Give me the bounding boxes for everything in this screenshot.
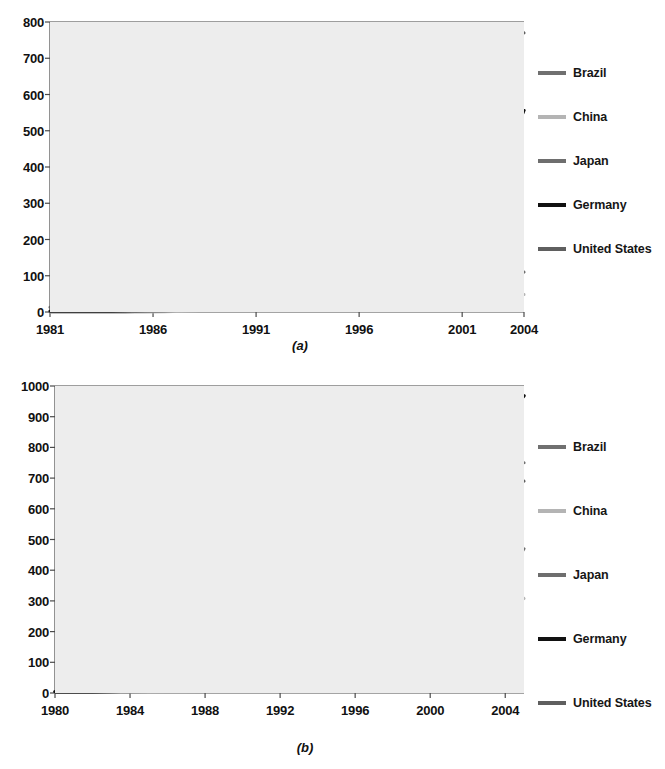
y-tick-label: 600 [7,501,49,516]
legend-swatch-icon [538,573,566,577]
legend-item-label: Germany [573,632,627,646]
legend-item-label: United States [573,242,652,256]
x-tick-label: 2001 [448,322,476,337]
legend-swatch-icon [538,71,566,75]
x-tick-label: 1992 [266,703,294,718]
y-tick-label: 700 [2,51,44,66]
y-tick-label: 500 [7,532,49,547]
y-tick-label: 300 [7,593,49,608]
x-tick-label: 1980 [41,703,69,718]
y-tick-label: 800 [2,15,44,30]
y-tick-label: 0 [2,305,44,320]
y-tick-label: 200 [2,232,44,247]
y-tick-label: 200 [7,624,49,639]
legend-item-japan[interactable]: Japan [538,154,609,168]
legend-item-label: China [573,110,607,124]
legend-item-label: Japan [573,568,609,582]
x-tick-label: 1984 [116,703,144,718]
legend-item-germany[interactable]: Germany [538,198,627,212]
plot-background-a [50,22,524,312]
legend-swatch-icon [538,637,566,642]
y-tick-label: 500 [2,123,44,138]
y-tick-label: 0 [7,686,49,701]
legend-item-germany[interactable]: Germany [538,632,627,646]
legend-item-label: China [573,504,607,518]
y-tick-label: 700 [7,471,49,486]
x-tick-label: 2004 [491,703,519,718]
x-tick-label: 1991 [242,322,270,337]
x-tick-label: 1986 [139,322,167,337]
plot-area-a [50,22,524,312]
x-tick-label: 2000 [416,703,444,718]
panel-caption-a: (a) [292,338,308,353]
legend-item-brazil[interactable]: Brazil [538,66,606,80]
legend-item-united-states[interactable]: United States [538,696,652,710]
y-tick-label: 400 [2,160,44,175]
y-tick-label: 600 [2,87,44,102]
legend-item-label: United States [573,696,652,710]
legend-item-united-states[interactable]: United States [538,242,652,256]
plot-background-b [55,386,524,693]
y-tick-label: 800 [7,440,49,455]
y-tick-label: 100 [2,268,44,283]
legend-item-china[interactable]: China [538,110,607,124]
legend-swatch-icon [538,115,566,119]
x-tick-label: 1996 [345,322,373,337]
y-tick-label: 1000 [7,379,49,394]
legend-swatch-icon [538,445,566,449]
legend-swatch-icon [538,701,566,705]
x-tick-label: 1996 [341,703,369,718]
legend-item-japan[interactable]: Japan [538,568,609,582]
legend-item-label: Japan [573,154,609,168]
y-tick-label: 300 [2,196,44,211]
legend-swatch-icon [538,509,566,513]
legend-item-label: Brazil [573,66,606,80]
y-tick-label: 400 [7,563,49,578]
legend-item-label: Brazil [573,440,606,454]
legend-swatch-icon [538,203,566,208]
x-tick-label: 2004 [510,322,538,337]
legend-item-brazil[interactable]: Brazil [538,440,606,454]
plot-area-b [55,386,524,693]
legend-item-label: Germany [573,198,627,212]
panel-caption-b: (b) [297,740,314,755]
legend-swatch-icon [538,247,566,251]
y-tick-label: 900 [7,409,49,424]
y-tick-label: 100 [7,655,49,670]
x-tick-label: 1981 [36,322,64,337]
legend-swatch-icon [538,159,566,163]
x-tick-label: 1988 [191,703,219,718]
legend-item-china[interactable]: China [538,504,607,518]
